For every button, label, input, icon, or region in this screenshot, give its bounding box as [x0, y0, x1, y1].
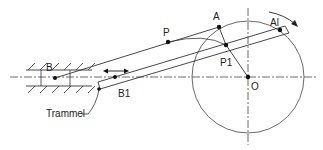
label-P1: P1: [220, 57, 233, 68]
label-trammel: Trammel: [46, 108, 85, 119]
label-P: P: [163, 27, 170, 38]
label-B1: B1: [118, 88, 131, 99]
label-O: O: [251, 81, 259, 92]
point-B: [53, 76, 57, 80]
point-P1: [224, 43, 228, 47]
locus-arc: [168, 38, 226, 45]
motion-double-arrow-icon: [103, 69, 129, 74]
label-A1: Al: [270, 17, 279, 28]
trammel-leader: [88, 90, 99, 114]
label-B: B: [46, 62, 53, 73]
trammel-bar: [98, 26, 289, 89]
point-A: [217, 25, 221, 29]
point-A1: [278, 28, 282, 32]
point-B1: [113, 75, 117, 79]
label-A: A: [213, 11, 220, 22]
point-P: [166, 40, 170, 44]
trammel-diagram: A Al P P1 O B B1 Trammel: [0, 0, 323, 150]
slider-guide: [26, 63, 95, 93]
point-trammel-end: [97, 87, 101, 91]
point-O: [246, 75, 250, 79]
